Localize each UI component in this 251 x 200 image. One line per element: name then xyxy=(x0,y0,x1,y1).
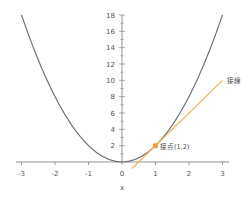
x-axis-label: x xyxy=(120,184,124,192)
x-tick-label: 3 xyxy=(220,170,224,178)
x-tick-label: 1 xyxy=(153,170,157,178)
x-tick-label: 2 xyxy=(187,170,191,178)
tangent-line xyxy=(132,80,223,168)
y-tick-label: 14 xyxy=(106,44,115,52)
x-tick-labels: -3 -2 -1 0 1 2 3 xyxy=(18,170,225,178)
tangent-point-marker xyxy=(153,143,158,148)
x-tick-label: 0 xyxy=(120,170,124,178)
y-tick-label: 8 xyxy=(111,93,115,101)
x-tick-label: -2 xyxy=(52,170,59,178)
y-tick-label: 12 xyxy=(106,61,115,69)
y-tick-label: 4 xyxy=(111,126,116,134)
x-tick-label: -1 xyxy=(85,170,92,178)
y-tick-labels: 2 4 6 8 10 12 14 16 18 xyxy=(106,12,115,151)
tangent-point-label: 接点(1,2) xyxy=(160,142,189,151)
y-tick-label: 16 xyxy=(106,28,115,36)
y-tick-label: 2 xyxy=(111,142,115,150)
y-tick-label: 10 xyxy=(106,77,115,85)
chart-canvas: -3 -2 -1 0 1 2 3 x 2 4 6 8 10 12 14 xyxy=(0,0,251,200)
y-tick-label: 6 xyxy=(111,110,116,118)
y-tick-label: 18 xyxy=(106,12,115,20)
tangent-line-label: 接線 xyxy=(227,76,241,85)
x-tick-label: -3 xyxy=(18,170,25,178)
